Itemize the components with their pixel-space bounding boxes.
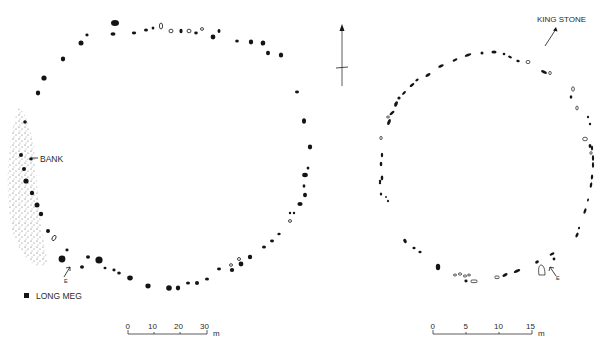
right-stone-circle: KING STONE E 0 5 10 15 m — [379, 15, 594, 338]
scale-unit: m — [213, 329, 220, 338]
north-arrow-icon — [336, 24, 348, 86]
left-entrance-arrow: E — [64, 267, 70, 284]
scale-tick-15: 15 — [526, 322, 535, 331]
scale-tick-30: 30 — [200, 322, 209, 331]
scale-tick-10: 10 — [494, 322, 503, 331]
right-entrance-label: E — [556, 275, 560, 281]
scale-tick-20: 20 — [174, 322, 183, 331]
right-circle-stones — [379, 50, 594, 282]
scale-tick-5: 5 — [464, 322, 469, 331]
scale-unit: m — [538, 329, 545, 338]
king-stone-arrow-icon — [545, 27, 558, 46]
scale-tick-10: 10 — [148, 322, 157, 331]
king-stone-label: KING STONE — [537, 15, 586, 24]
scale-tick-0: 0 — [126, 322, 131, 331]
long-meg-label: LONG MEG — [36, 291, 82, 301]
bank-area — [8, 108, 48, 266]
bank-label: BANK — [40, 154, 63, 164]
left-scale-bar — [128, 330, 207, 334]
stone-circle-plans: BANK E LONG MEG 0 10 20 30 m — [0, 0, 612, 353]
left-stone-circle: BANK E LONG MEG 0 10 20 30 m — [8, 20, 312, 338]
right-circle-fallen-stones — [380, 60, 592, 282]
right-entrance-arrow: E — [549, 267, 560, 281]
long-meg-stone — [24, 293, 29, 298]
right-scale-bar — [433, 330, 532, 334]
left-circle-fallen-stones — [51, 23, 291, 266]
left-entrance-label: E — [64, 278, 68, 284]
scale-tick-0: 0 — [431, 322, 436, 331]
